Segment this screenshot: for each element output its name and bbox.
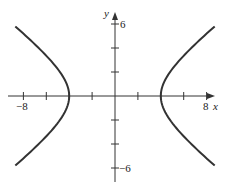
x-axis-arrow-icon bbox=[207, 93, 215, 99]
hyperbola-graph: −8 8 x y 6 −6 bbox=[0, 0, 232, 187]
y-axis-arrow-icon bbox=[112, 12, 118, 20]
x-axis-label: x bbox=[212, 100, 218, 112]
y-axis-label: y bbox=[103, 7, 109, 19]
x-tick-label-max: 8 bbox=[203, 100, 209, 112]
x-tick-label-min: −8 bbox=[16, 100, 28, 112]
y-tick-label-max: 6 bbox=[120, 18, 126, 30]
y-tick-label-min: −6 bbox=[119, 162, 131, 174]
